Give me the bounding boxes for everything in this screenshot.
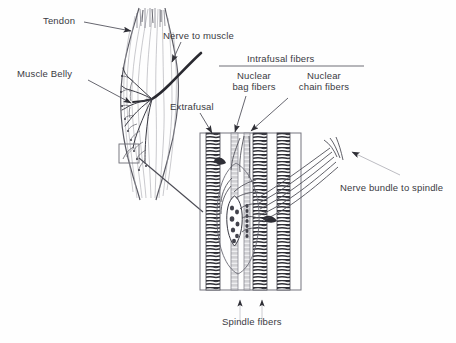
label-nerve-bundle-to-spindle: Nerve bundle to spindle xyxy=(340,182,443,193)
extrafusal-fiber xyxy=(206,133,220,290)
nuclear-bag-leader xyxy=(235,96,246,132)
nuclear-bag-line-1: Nuclear xyxy=(237,70,271,81)
extrafusal-fiber xyxy=(277,133,290,290)
label-nuclear-bag-fibers: Nuclear bag fibers xyxy=(225,70,283,92)
label-extrafusal: Extrafusal xyxy=(170,101,214,112)
nuclear-chain-line-2: chain fibers xyxy=(299,81,349,92)
muscle-belly-leader xyxy=(88,80,131,103)
label-tendon: Tendon xyxy=(43,15,75,26)
magnification-connector xyxy=(139,158,203,212)
extrafusal-leader xyxy=(200,113,212,133)
label-spindle-fibers: Spindle fibers xyxy=(222,316,282,327)
label-nuclear-chain-fibers: Nuclear chain fibers xyxy=(291,70,357,92)
nerve-bundle-leader xyxy=(352,152,400,175)
tendon-leader xyxy=(84,22,131,31)
nuclear-chain-leader xyxy=(251,98,288,131)
nuclear-chain-line-1: Nuclear xyxy=(307,70,341,81)
label-nerve-to-muscle: Nerve to muscle xyxy=(163,30,234,41)
extrafusal-fiber xyxy=(253,133,267,290)
nuclear-bag-line-2: bag fibers xyxy=(232,81,275,92)
spindle-detail-box xyxy=(200,133,343,290)
label-intrafusal-fibers: Intrafusal fibers xyxy=(247,53,315,64)
muscle-spindle-figure: Tendon Muscle Belly Nerve to muscle Extr… xyxy=(0,0,456,343)
diagram-canvas xyxy=(0,0,456,343)
label-muscle-belly: Muscle Belly xyxy=(17,68,72,79)
